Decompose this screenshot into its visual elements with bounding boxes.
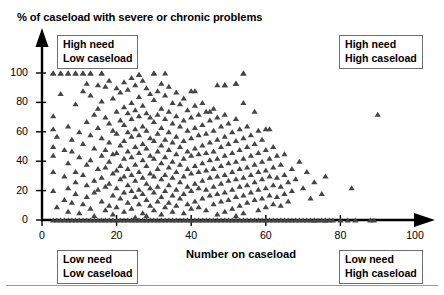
data-point-marker (300, 185, 306, 190)
data-point-marker (196, 132, 202, 137)
data-point-marker (125, 182, 131, 187)
data-point-marker (222, 82, 228, 87)
data-point-marker (252, 197, 258, 202)
data-point-marker (143, 110, 149, 115)
data-point-marker (207, 175, 213, 180)
data-point-marker (222, 172, 228, 177)
data-point-marker (61, 147, 67, 152)
data-point-marker (214, 156, 220, 161)
data-point-marker (84, 119, 90, 124)
data-point-marker (143, 181, 149, 186)
data-point-marker (240, 156, 246, 161)
x-tick-label: 60 (251, 229, 281, 241)
data-point-marker (166, 109, 172, 114)
data-point-marker (248, 172, 254, 177)
data-point-marker (87, 157, 93, 162)
data-point-marker (225, 141, 231, 146)
data-point-marker (99, 98, 105, 103)
data-point-marker (255, 150, 261, 155)
data-point-marker (162, 204, 168, 209)
data-point-marker (99, 175, 105, 180)
data-point-marker (222, 134, 228, 139)
data-point-marker (210, 148, 216, 153)
data-point-marker (136, 187, 142, 192)
data-point-marker (237, 126, 243, 131)
data-point-marker (233, 81, 239, 86)
data-point-marker (225, 197, 231, 202)
data-point-marker (169, 175, 175, 180)
x-tick-label: 0 (27, 229, 57, 241)
data-point-marker (181, 191, 187, 196)
data-point-marker (169, 209, 175, 214)
data-point-marker (162, 188, 168, 193)
data-point-marker (229, 206, 235, 211)
data-point-marker (117, 163, 123, 168)
data-point-marker (196, 112, 202, 117)
data-point-marker (155, 88, 161, 93)
data-point-marker (281, 191, 287, 196)
data-point-marker (196, 185, 202, 190)
data-point-marker (199, 160, 205, 165)
data-point-marker (233, 213, 239, 218)
data-point-marker (184, 148, 190, 153)
data-point-marker (192, 103, 198, 108)
data-point-marker (181, 138, 187, 143)
data-point-marker (121, 173, 127, 178)
data-point-marker (181, 95, 187, 100)
data-point-marker (270, 144, 276, 149)
annotation-line-1: High need (345, 38, 417, 52)
data-point-marker (255, 207, 261, 212)
data-point-marker (95, 82, 101, 87)
data-point-marker (91, 112, 97, 117)
data-point-marker (140, 123, 146, 128)
data-point-marker (128, 100, 134, 105)
data-point-marker (117, 118, 123, 123)
data-point-marker (214, 115, 220, 120)
data-point-marker (259, 195, 265, 200)
data-point-marker (266, 173, 272, 178)
data-point-marker (158, 176, 164, 181)
data-point-marker (72, 179, 78, 184)
data-point-marker (214, 212, 220, 217)
x-tick-label: 80 (325, 229, 355, 241)
data-point-marker (181, 210, 187, 215)
data-point-marker (214, 137, 220, 142)
data-point-marker (184, 166, 190, 171)
data-point-marker (218, 163, 224, 168)
data-point-marker (87, 93, 93, 98)
data-point-marker (296, 159, 302, 164)
data-point-marker (263, 126, 269, 131)
data-point-marker (311, 179, 317, 184)
data-point-marker (151, 190, 157, 195)
data-point-marker (147, 153, 153, 158)
data-point-marker (125, 200, 131, 205)
data-point-marker (54, 134, 60, 139)
data-point-marker (158, 212, 164, 217)
x-axis-title: Number on caseload (186, 248, 296, 260)
data-point-marker (162, 172, 168, 177)
data-point-marker (166, 200, 172, 205)
data-point-marker (169, 120, 175, 125)
data-point-marker (147, 170, 153, 175)
data-point-marker (173, 169, 179, 174)
data-point-marker (121, 209, 127, 214)
data-point-marker (61, 173, 67, 178)
data-point-marker (110, 193, 116, 198)
data-point-marker (140, 141, 146, 146)
data-point-marker (91, 145, 97, 150)
data-point-marker (166, 182, 172, 187)
data-point-marker (80, 141, 86, 146)
data-point-marker (162, 71, 168, 76)
data-point-marker (136, 72, 142, 77)
data-point-marker (222, 112, 228, 117)
data-point-marker (128, 206, 134, 211)
data-point-marker (203, 150, 209, 155)
data-point-marker (114, 204, 120, 209)
data-point-marker (99, 71, 105, 76)
data-point-marker (162, 116, 168, 121)
data-point-marker (132, 178, 138, 183)
data-point-marker (177, 195, 183, 200)
data-point-marker (210, 166, 216, 171)
data-point-marker (237, 147, 243, 152)
data-point-marker (140, 175, 146, 180)
